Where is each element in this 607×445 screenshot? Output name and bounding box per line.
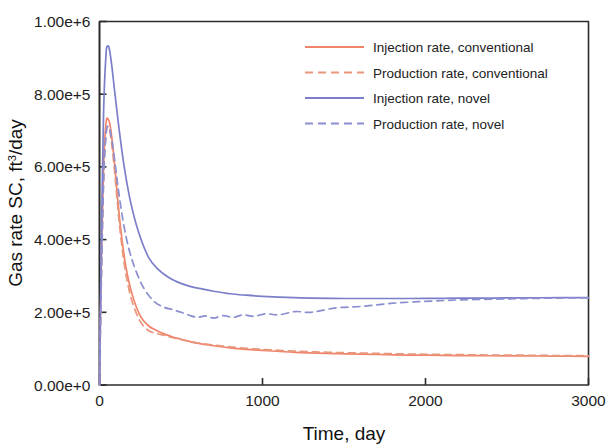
series-line-production_novel [100, 126, 589, 385]
y-axis-title: Gas rate SC, ft3/day [5, 119, 26, 287]
y-tick-label: 4.00e+5 [34, 231, 90, 248]
y-tick-label: 8.00e+5 [34, 86, 90, 103]
svg-text:Gas rate SC, ft3/day: Gas rate SC, ft3/day [5, 119, 26, 287]
y-axis-title-tail: /day [5, 119, 26, 155]
x-tick-label: 3000 [571, 392, 606, 409]
y-tick-label: 1.00e+6 [34, 13, 90, 30]
series-line-production_conventional [100, 127, 589, 385]
x-tick-label: 1000 [245, 392, 280, 409]
x-axis-title: Time, day [303, 423, 386, 444]
x-axis-tick-labels: 0100020003000 [95, 392, 606, 409]
legend-label-2: Injection rate, novel [373, 91, 490, 106]
x-axis-ticks [100, 378, 589, 385]
data-series-group [100, 46, 589, 385]
chart-figure: 0.00e+02.00e+54.00e+56.00e+58.00e+51.00e… [0, 0, 607, 445]
series-line-injection_conventional [100, 118, 589, 385]
series-line-injection_novel [100, 46, 589, 385]
chart-legend: Injection rate, conventionalProduction r… [305, 40, 548, 132]
y-axis-tick-labels: 0.00e+02.00e+54.00e+56.00e+58.00e+51.00e… [34, 13, 91, 394]
x-tick-label: 2000 [408, 392, 443, 409]
y-axis-title-main: Gas rate SC, ft [5, 160, 26, 286]
legend-label-1: Production rate, conventional [373, 66, 548, 81]
y-tick-label: 0.00e+0 [34, 377, 91, 394]
y-tick-label: 6.00e+5 [34, 158, 90, 175]
x-tick-label: 0 [95, 392, 104, 409]
y-tick-label: 2.00e+5 [34, 304, 90, 321]
legend-label-0: Injection rate, conventional [373, 40, 534, 55]
gas-rate-line-chart: 0.00e+02.00e+54.00e+56.00e+58.00e+51.00e… [0, 0, 607, 445]
legend-label-3: Production rate, novel [373, 117, 504, 132]
